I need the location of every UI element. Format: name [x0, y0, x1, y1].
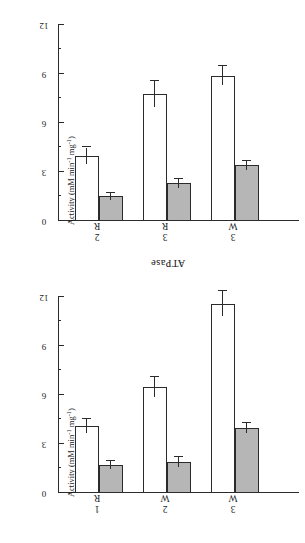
figure-root: 036912 1R2W3W Activity (mM min-1 mg-1) A… [0, 0, 305, 543]
axis-title-mid: mg [66, 416, 76, 429]
category-label-number: 3 [201, 232, 265, 242]
error-bar-cap [218, 65, 227, 66]
y-tick-label: 3 [37, 168, 51, 177]
axis-title-end: ) [66, 408, 76, 411]
y-tick-label: 0 [37, 489, 51, 498]
y-tick-label: 3 [37, 440, 51, 449]
category-label: 2W [133, 493, 197, 514]
chart-panel-ldh: 036912 2R3R3W Activity (mM min-1 mg-1) L… [0, 5, 305, 267]
bar-filled [167, 183, 191, 221]
y-tick-label: 9 [37, 342, 51, 351]
bar-filled [99, 465, 123, 493]
y-axis-title-atpase: Activity (mM min-1 mg-1) [64, 378, 77, 528]
bar-group: 2W [133, 297, 197, 493]
error-bar [178, 457, 179, 467]
category-label-number: 3 [201, 504, 265, 514]
y-tick-minor [58, 49, 61, 50]
axis-title-main: Activity (mM min [66, 163, 76, 225]
category-label-number: 3 [133, 232, 197, 242]
y-tick-major [58, 73, 64, 74]
axis-title-mid: mg [66, 144, 76, 157]
axis-title-sup-2: -1 [65, 411, 72, 416]
bar-filled [235, 165, 259, 221]
error-bar-cap [174, 456, 183, 457]
error-bar-cap [150, 376, 159, 377]
y-tick-minor [58, 98, 61, 99]
category-label-letter: R [133, 221, 197, 231]
category-label-letter: W [133, 493, 197, 503]
y-tick-label: 12 [37, 21, 51, 30]
y-tick-major [58, 345, 64, 346]
y-tick-label: 6 [37, 391, 51, 400]
y-axis-title-ldh: Activity (mM min-1 mg-1) [64, 106, 77, 256]
axis-title-sup-2: -1 [65, 139, 72, 144]
y-tick-major [58, 24, 64, 25]
error-bar-cap [242, 422, 251, 423]
category-label-letter: W [201, 493, 265, 503]
category-label: 3W [201, 493, 265, 514]
error-bar-cap [150, 80, 159, 81]
error-bar [86, 419, 87, 434]
category-label-number: 2 [133, 504, 197, 514]
plot-area-ldh: 036912 2R3R3W Activity (mM min-1 mg-1) L… [59, 25, 277, 221]
bar-open [143, 94, 167, 221]
category-label-letter: W [201, 221, 265, 231]
plot-area-atpase: 036912 1R2W3W Activity (mM min-1 mg-1) A… [59, 297, 277, 493]
bar-filled [99, 197, 123, 222]
error-bar [222, 291, 223, 316]
axis-title-main: Activity (mM min [66, 435, 76, 497]
error-bar [246, 423, 247, 433]
y-tick-minor [58, 321, 61, 322]
bar-group: 3R [133, 25, 197, 221]
axis-title-sup-1: -1 [65, 157, 72, 162]
bar-group: 3W [201, 25, 265, 221]
error-bar-cap [242, 160, 251, 161]
chart-panel-atpase: 036912 1R2W3W Activity (mM min-1 mg-1) A… [0, 277, 305, 539]
error-bar-cap [82, 147, 91, 148]
error-bar [110, 461, 111, 469]
error-bar [154, 377, 155, 397]
y-tick-minor [58, 419, 61, 420]
y-axis-ldh [58, 25, 59, 221]
y-tick-minor [58, 468, 61, 469]
bar-filled [235, 428, 259, 493]
bar-open [143, 387, 167, 493]
bar-open [75, 426, 99, 493]
y-tick-minor [58, 147, 61, 148]
bar-filled [167, 462, 191, 493]
y-tick-minor [58, 370, 61, 371]
y-tick-label: 9 [37, 70, 51, 79]
y-tick-major [58, 296, 64, 297]
error-bar-cap [106, 460, 115, 461]
y-tick-label: 6 [37, 119, 51, 128]
error-bar [178, 179, 179, 189]
error-bar-cap [174, 178, 183, 179]
error-bar [110, 193, 111, 200]
error-bar [86, 148, 87, 164]
bar-open [211, 304, 235, 493]
bar-open [211, 76, 235, 221]
axis-title-sup-1: -1 [65, 429, 72, 434]
error-bar-cap [82, 418, 91, 419]
y-tick-label: 12 [37, 293, 51, 302]
category-label: 3W [201, 221, 265, 242]
y-tick-label: 0 [37, 217, 51, 226]
error-bar-cap [106, 192, 115, 193]
category-label: 3R [133, 221, 197, 242]
bar-group: 3W [201, 297, 265, 493]
error-bar [222, 66, 223, 86]
error-bar-cap [218, 290, 227, 291]
axis-title-end: ) [66, 136, 76, 139]
y-axis-atpase [58, 297, 59, 493]
error-bar [246, 161, 247, 171]
y-tick-minor [58, 196, 61, 197]
bar-open [75, 156, 99, 221]
error-bar [154, 81, 155, 107]
